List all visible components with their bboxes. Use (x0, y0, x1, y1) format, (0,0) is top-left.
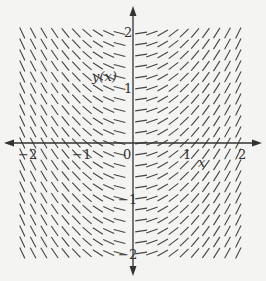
slope-segment (51, 28, 58, 38)
slope-segment (62, 105, 69, 114)
x-tick-label-2: 2 (238, 147, 246, 162)
slope-segment (169, 128, 179, 135)
slope-segment (62, 72, 69, 81)
slope-segment (191, 61, 199, 70)
slope-segment (146, 130, 157, 134)
slope-segment (225, 72, 231, 82)
origin-label: 0 (123, 147, 131, 162)
slope-segment (41, 94, 47, 104)
slope-segment (135, 153, 147, 155)
slope-segment (62, 215, 69, 224)
slope-segment (72, 238, 80, 247)
slope-segment (135, 241, 147, 243)
slope-segment (236, 39, 241, 50)
slope-segment (158, 96, 168, 102)
slope-segment (41, 182, 47, 192)
slope-segment (202, 248, 209, 258)
slope-segment (62, 237, 69, 246)
slope-segment (236, 50, 241, 61)
slope-segment (72, 249, 80, 258)
slope-segment (30, 182, 36, 193)
x-axis-title: x (198, 155, 206, 170)
slope-segment (135, 109, 147, 111)
slope-segment (236, 215, 241, 226)
slope-segment (51, 61, 58, 71)
slope-segment (169, 29, 179, 36)
slope-segment (72, 95, 80, 104)
slope-segment (41, 116, 47, 126)
slope-segment (214, 248, 220, 258)
slope-segment (214, 116, 220, 126)
slope-segment (169, 216, 179, 223)
slope-segment (62, 116, 69, 125)
slope-segment (83, 51, 92, 59)
slope-segment (135, 164, 147, 166)
slope-segment (103, 174, 114, 179)
slope-segment (41, 215, 47, 225)
slope-segment (20, 105, 25, 116)
slope-segment (214, 39, 220, 49)
slope-segment (20, 182, 25, 193)
slope-segment (20, 83, 25, 94)
slope-segment (30, 28, 36, 39)
slope-segment (135, 65, 147, 67)
slope-segment (169, 73, 179, 80)
slope-segment (135, 43, 147, 45)
slope-segment (62, 204, 69, 213)
slope-segment (41, 50, 47, 60)
slope-segment (30, 237, 36, 248)
slope-segment (146, 152, 157, 156)
slope-segment (180, 227, 189, 235)
slope-segment (236, 171, 241, 182)
slope-segment (62, 149, 69, 158)
slope-segment (236, 182, 241, 193)
slope-segment (236, 94, 241, 105)
slope-segment (62, 171, 69, 180)
slope-segment (83, 95, 92, 103)
x-axis-left-arrow-icon (4, 140, 14, 147)
slope-segment (135, 219, 147, 221)
slope-segment (51, 39, 58, 49)
slope-segment (135, 120, 147, 122)
slope-segment (225, 171, 231, 181)
slope-segment (169, 62, 179, 69)
slope-segment (191, 248, 199, 257)
slope-segment (41, 160, 47, 170)
slope-segment (51, 116, 58, 126)
slope-segment (225, 204, 231, 214)
slope-segment (191, 182, 199, 191)
slope-segment (135, 87, 147, 89)
slope-segment (72, 73, 80, 82)
slope-segment (214, 226, 220, 236)
slope-segment (214, 204, 220, 214)
slope-segment (20, 116, 25, 127)
slope-segment (103, 130, 114, 135)
slope-segment (20, 61, 25, 72)
slope-segment (146, 53, 157, 57)
y-tick-label-2: 2 (124, 25, 132, 40)
slope-segment (169, 117, 179, 124)
slope-segment (62, 182, 69, 191)
slope-segment (20, 215, 25, 226)
slope-segment (30, 171, 36, 182)
slope-segment (225, 28, 231, 38)
slope-segment (146, 42, 157, 46)
slope-segment (146, 251, 157, 255)
slope-segment (20, 237, 25, 248)
slope-segment (191, 237, 199, 246)
slope-segment (51, 50, 58, 60)
slope-segment (158, 162, 168, 168)
slope-segment (51, 160, 58, 170)
slope-segment (20, 28, 25, 39)
slope-segment (103, 86, 114, 91)
slope-segment (225, 39, 231, 49)
slope-segment (135, 32, 147, 34)
slope-segment (41, 39, 47, 49)
slope-segment (62, 94, 69, 103)
slope-segment (103, 218, 114, 223)
y-tick-label-neg2: −2 (118, 247, 137, 262)
slope-segment (236, 204, 241, 215)
slope-segment (202, 237, 209, 247)
slope-segment (72, 117, 80, 126)
slope-segment (202, 50, 209, 60)
